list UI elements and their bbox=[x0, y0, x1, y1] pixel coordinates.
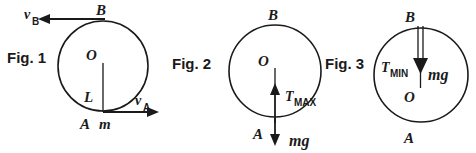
figure-2-tmax-arrow-head bbox=[270, 83, 280, 95]
figure-3-center-o-label: O bbox=[404, 89, 415, 105]
figure-2-mg-arrow-head bbox=[270, 134, 280, 146]
figure-3-caption: Fig. 3 bbox=[325, 55, 364, 72]
figure-1-point-b-label: B bbox=[95, 2, 106, 18]
figure-2-point-b-label: B bbox=[267, 7, 278, 23]
figure-1-caption: Fig. 1 bbox=[7, 49, 46, 66]
figure-1-vb-arrow-head bbox=[38, 14, 50, 24]
figure-2-center-o-label: O bbox=[258, 53, 269, 69]
figure-1-point-a-label: A bbox=[79, 116, 90, 132]
figure-1-mass-label: m bbox=[99, 116, 111, 132]
figure-2-group: Fig. 2 B O A T MAX mg bbox=[172, 7, 321, 150]
figure-3-mg-label: mg bbox=[428, 66, 448, 84]
figure-3-point-b-label: B bbox=[404, 9, 415, 25]
figure-2-tmax-label-subscript: MAX bbox=[294, 97, 317, 108]
figure-1-vb-label: v bbox=[24, 7, 31, 22]
figure-3-tmin-label-subscript: MIN bbox=[390, 68, 408, 79]
figure-1-va-label: v bbox=[135, 93, 142, 108]
figure-2-caption: Fig. 2 bbox=[172, 55, 211, 72]
figure-1-center-o-label: O bbox=[86, 47, 97, 63]
physics-figure-board: Fig. 1 B O L A m v B v A Fig. 2 bbox=[0, 0, 476, 153]
figure-2-mg-label: mg bbox=[289, 132, 309, 150]
figure-1-vb-label-subscript: B bbox=[32, 16, 39, 27]
figure-3-point-a-label: A bbox=[403, 130, 414, 146]
figure-1-va-label-subscript: A bbox=[143, 102, 150, 113]
figure-2-point-a-label: A bbox=[252, 126, 263, 142]
figures-canvas: Fig. 1 B O L A m v B v A Fig. 2 bbox=[0, 0, 476, 153]
figure-1-group: Fig. 1 B O L A m v B v A bbox=[7, 2, 159, 132]
figure-1-radius-label: L bbox=[83, 89, 93, 105]
figure-3-group: Fig. 3 B O A T MIN mg bbox=[325, 9, 468, 146]
